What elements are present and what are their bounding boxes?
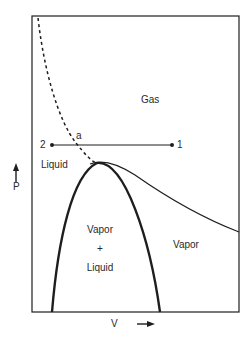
- point-1-dot: [170, 143, 174, 147]
- region-label-gas: Gas: [141, 95, 159, 105]
- y-axis-label: P: [13, 182, 20, 192]
- critical-isotherm: [90, 162, 239, 232]
- point-label-a: a: [76, 131, 82, 141]
- region-label-liquid: Liquid: [41, 160, 68, 170]
- point-label-1: 1: [177, 140, 183, 150]
- region-label-vapor-liquid-top: Vapor: [87, 225, 113, 235]
- x-axis-label: V: [111, 319, 118, 329]
- region-label-vapor-liquid-plus: +: [97, 244, 103, 254]
- dashed-isotherm-curve: [38, 18, 96, 163]
- coexistence-dome: [52, 163, 160, 312]
- right-arrow-icon: [147, 321, 155, 327]
- phase-diagram-canvas: [0, 0, 251, 340]
- point-2-dot: [50, 143, 54, 147]
- region-label-vapor-liquid-bottom: Liquid: [87, 263, 114, 273]
- point-label-2: 2: [40, 140, 46, 150]
- region-label-vapor: Vapor: [173, 240, 199, 250]
- up-arrow-icon: [13, 163, 19, 171]
